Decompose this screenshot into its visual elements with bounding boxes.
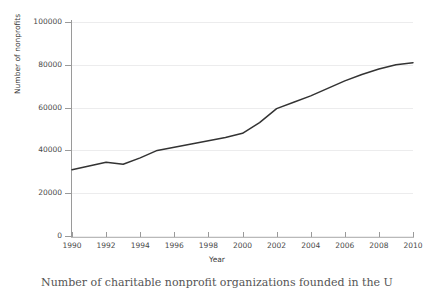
- y-tick-label-40000: 40000: [2, 146, 62, 154]
- y-axis-label: Number of nonprofits: [13, 0, 22, 94]
- y-tick-mark: [65, 65, 71, 66]
- gridline-80000: [72, 65, 413, 66]
- x-tick-mark: [379, 232, 380, 237]
- x-tick-mark: [277, 232, 278, 237]
- x-tick-mark: [413, 232, 414, 237]
- gridline-40000: [72, 150, 413, 151]
- plot-area: [72, 22, 413, 236]
- figure-caption: Number of charitable nonprofit organizat…: [0, 276, 434, 289]
- y-tick-mark: [65, 22, 71, 23]
- y-tick-mark: [65, 193, 71, 194]
- gridline-100000: [72, 22, 413, 23]
- x-tick-mark: [140, 232, 141, 237]
- y-tick-mark: [65, 236, 71, 237]
- x-tick-mark: [311, 232, 312, 237]
- y-tick-mark: [65, 150, 71, 151]
- y-tick-label-0: 0: [2, 232, 62, 240]
- gridline-20000: [72, 193, 413, 194]
- x-tick-mark: [174, 232, 175, 237]
- gridline-60000: [72, 108, 413, 109]
- x-tick-mark: [208, 232, 209, 237]
- y-tick-label-100000: 100000: [2, 18, 62, 26]
- y-axis-spine: [71, 20, 72, 238]
- y-tick-label-60000: 60000: [2, 104, 62, 112]
- x-tick-label-2010: 2010: [393, 241, 433, 250]
- x-tick-mark: [345, 232, 346, 237]
- y-tick-label-20000: 20000: [2, 189, 62, 197]
- x-axis-label: Year: [0, 255, 434, 264]
- y-tick-label-80000: 80000: [2, 61, 62, 69]
- y-tick-mark: [65, 108, 71, 109]
- x-tick-mark: [72, 232, 73, 237]
- x-tick-mark: [243, 232, 244, 237]
- x-tick-mark: [106, 232, 107, 237]
- x-axis-spine: [71, 237, 414, 238]
